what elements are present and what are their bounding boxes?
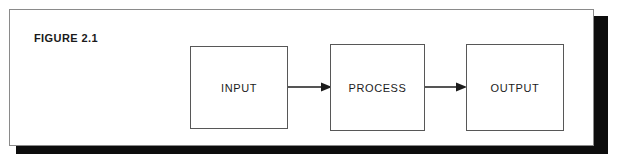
- arrow-process-to-output: [425, 81, 467, 93]
- figure-root: FIGURE 2.1 INPUT PROCESS OUTPUT: [0, 0, 618, 162]
- figure-caption: FIGURE 2.1: [34, 32, 98, 44]
- flow-node-process-label: PROCESS: [349, 82, 407, 94]
- flow-node-input-label: INPUT: [221, 82, 257, 94]
- flow-node-output: OUTPUT: [466, 44, 564, 131]
- flow-node-process: PROCESS: [330, 44, 425, 131]
- flow-node-output-label: OUTPUT: [491, 82, 540, 94]
- figure-plate: FIGURE 2.1 INPUT PROCESS OUTPUT: [9, 9, 594, 146]
- arrow-input-to-process: [288, 81, 332, 93]
- flow-node-input: INPUT: [190, 46, 288, 129]
